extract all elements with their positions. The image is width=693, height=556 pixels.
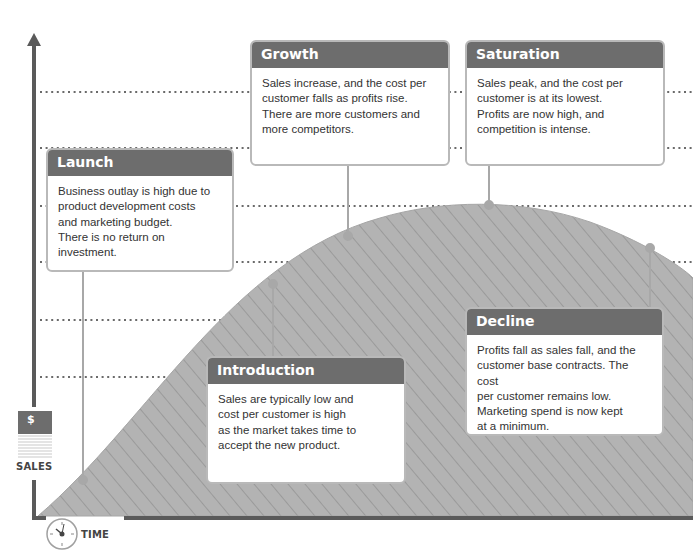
stage-title: Introduction bbox=[208, 358, 404, 384]
stage-title: Decline bbox=[467, 309, 662, 335]
y-axis-label: SALES bbox=[16, 461, 52, 472]
stage-description: Sales are typically low and cost per cus… bbox=[208, 384, 404, 461]
stage-box-launch: Launch Business outlay is high due to pr… bbox=[46, 148, 234, 272]
dollar-icon bbox=[18, 411, 52, 457]
stage-description: Business outlay is high due to product d… bbox=[48, 176, 232, 268]
clock-icon bbox=[47, 519, 77, 549]
dollar-symbol: $ bbox=[27, 413, 35, 426]
stage-box-introduction: Introduction Sales are typically low and… bbox=[206, 356, 406, 484]
stage-description: Sales peak, and the cost per customer is… bbox=[467, 68, 663, 145]
stage-box-saturation: Saturation Sales peak, and the cost per … bbox=[465, 40, 665, 166]
stage-title: Growth bbox=[252, 42, 448, 68]
stage-title: Saturation bbox=[467, 42, 663, 68]
x-axis-label: TIME bbox=[81, 529, 109, 540]
stage-box-decline: Decline Profits fall as sales fall, and … bbox=[465, 307, 664, 436]
product-lifecycle-diagram: $ SALES TIME Launch Business outlay is h… bbox=[0, 0, 693, 556]
stage-box-growth: Growth Sales increase, and the cost per … bbox=[250, 40, 450, 166]
stage-description: Profits fall as sales fall, and the cust… bbox=[467, 335, 662, 436]
y-axis-arrow-icon bbox=[27, 33, 41, 46]
stage-title: Launch bbox=[48, 150, 232, 176]
stage-description: Sales increase, and the cost per custome… bbox=[252, 68, 448, 145]
